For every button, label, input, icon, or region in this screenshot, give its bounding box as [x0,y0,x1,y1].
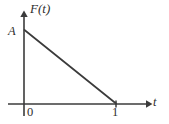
y-axis-label: F(t) [30,2,50,15]
y-axis-arrowhead [20,11,27,18]
x-tick-label-zero: 0 [27,106,33,119]
figure-canvas: F(t) A 0 1 t [0,0,169,124]
x-tick-label-one: 1 [112,106,118,119]
series-line-ft [25,30,117,104]
x-axis-label: t [153,96,156,109]
x-axis-arrowhead [146,100,153,108]
plot-area [0,0,169,124]
amplitude-label-A: A [8,25,16,38]
